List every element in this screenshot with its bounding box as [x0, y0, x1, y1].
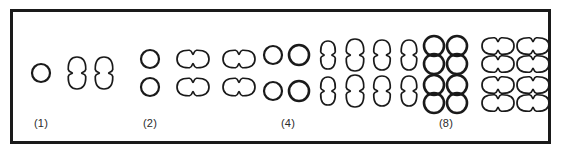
group-caption-1: (2) [143, 117, 157, 129]
figure-root: (1)(2)(4)(8) [0, 0, 561, 152]
group-caption-2: (4) [281, 117, 295, 129]
group-caption-3: (8) [439, 117, 453, 129]
group-caption-0: (1) [34, 117, 48, 129]
